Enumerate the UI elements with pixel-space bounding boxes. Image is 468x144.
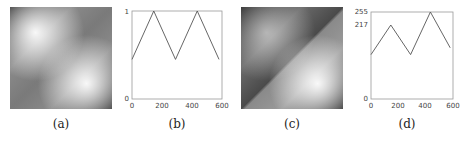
xtick-600: 600 bbox=[446, 102, 459, 110]
xtick-200: 200 bbox=[155, 102, 168, 110]
ytick-0: 0 bbox=[125, 95, 129, 103]
xtick-0: 0 bbox=[369, 102, 373, 110]
xtick-400: 400 bbox=[185, 102, 198, 110]
caption-c: (c) bbox=[272, 117, 312, 131]
image-a bbox=[10, 7, 112, 109]
xtick-200: 200 bbox=[391, 102, 404, 110]
ytick-217: 217 bbox=[355, 21, 368, 29]
caption-a: (a) bbox=[41, 117, 81, 131]
plot-b: 1 0 0 200 400 600 bbox=[120, 0, 230, 116]
caption-d: (d) bbox=[387, 117, 427, 131]
image-c bbox=[241, 7, 343, 109]
xtick-0: 0 bbox=[130, 102, 134, 110]
xtick-600: 600 bbox=[215, 102, 228, 110]
caption-b: (b) bbox=[157, 117, 197, 131]
ytick-255: 255 bbox=[355, 8, 368, 16]
ytick-1: 1 bbox=[125, 8, 129, 16]
ytick-0: 0 bbox=[364, 95, 368, 103]
xtick-400: 400 bbox=[418, 102, 431, 110]
plot-d: 255 217 0 0 200 400 600 bbox=[355, 0, 465, 116]
